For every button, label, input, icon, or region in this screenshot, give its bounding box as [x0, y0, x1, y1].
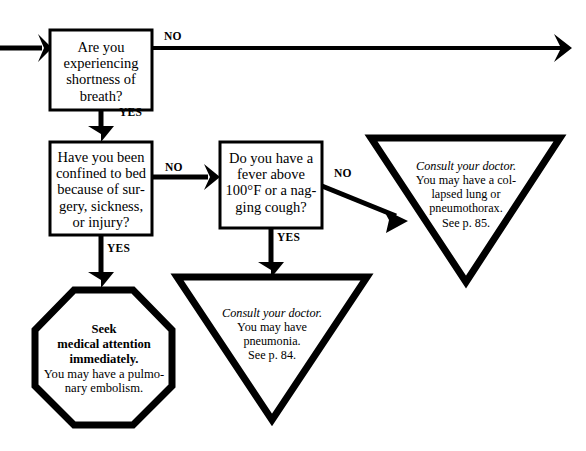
edge-entry-arrow — [0, 34, 52, 62]
node-question-bedrest: Have you been confined to bed because of… — [48, 149, 154, 230]
node-question-bedrest-line-2: confined to bed — [48, 165, 154, 181]
edge-label-fever-yes: YES — [277, 231, 300, 243]
node-question-bedrest-line-4: gery, sickness, — [48, 198, 154, 214]
node-question-fever: Do you have a fever above 100°F or a nag… — [218, 150, 324, 215]
node-outcome-embolism: Seek medical attention immediately. You … — [25, 322, 183, 396]
flowchart-canvas: Are you experiencing shortness of breath… — [0, 0, 586, 451]
node-outcome-pneumothorax-line-2: lapsed lung or — [388, 187, 544, 201]
edge-label-bedrest-yes: YES — [107, 242, 130, 254]
node-question-bedrest-line-3: because of sur- — [48, 181, 154, 197]
node-outcome-pneumothorax-line-3: pneumothorax. — [388, 201, 544, 215]
node-question-breath: Are you experiencing shortness of breath… — [50, 39, 152, 104]
node-question-breath-line-4: breath? — [50, 88, 152, 104]
node-question-fever-line-1: Do you have a — [218, 150, 324, 166]
node-outcome-embolism-bold-3: immediately. — [25, 352, 183, 367]
node-question-breath-line-1: Are you — [50, 39, 152, 55]
node-question-bedrest-line-5: or injury? — [48, 214, 154, 230]
node-outcome-pneumothorax-line-1: You may have a col- — [388, 173, 544, 187]
node-outcome-pneumonia-emphasis: Consult your doctor. — [194, 306, 350, 320]
node-question-bedrest-line-1: Have you been — [48, 149, 154, 165]
node-outcome-pneumothorax-line-4: See p. 85. — [388, 216, 544, 230]
edge-label-breath-yes: YES — [119, 106, 142, 118]
node-outcome-pneumothorax-emphasis: Consult your doctor. — [388, 159, 544, 173]
node-question-fever-line-4: ging cough? — [218, 199, 324, 215]
edge-label-bedrest-no: NO — [165, 161, 183, 173]
node-question-breath-line-2: experiencing — [50, 55, 152, 71]
node-outcome-pneumonia-line-2: pneumonia. — [194, 334, 350, 348]
node-outcome-embolism-line-1: You may have a pulmo- — [25, 367, 183, 382]
node-question-fever-line-3: 100°F or a nag- — [218, 182, 324, 198]
node-outcome-embolism-line-2: nary embolism. — [25, 381, 183, 396]
node-question-fever-line-2: fever above — [218, 166, 324, 182]
edge-breath-no-arrow — [152, 34, 572, 62]
node-outcome-pneumonia: Consult your doctor. You may have pneumo… — [194, 306, 350, 363]
node-question-breath-line-3: shortness of — [50, 71, 152, 87]
edge-label-fever-no: NO — [334, 167, 352, 179]
node-outcome-pneumonia-line-1: You may have — [194, 320, 350, 334]
node-outcome-embolism-bold-1: Seek — [25, 322, 183, 337]
node-outcome-pneumonia-line-3: See p. 84. — [194, 348, 350, 362]
edge-bedrest-no-arrow — [152, 164, 220, 190]
edge-label-breath-no: NO — [164, 30, 182, 42]
node-outcome-pneumothorax: Consult your doctor. You may have a col-… — [388, 159, 544, 230]
edge-breath-yes-arrow — [88, 110, 114, 142]
node-outcome-embolism-bold-2: medical attention — [25, 337, 183, 352]
